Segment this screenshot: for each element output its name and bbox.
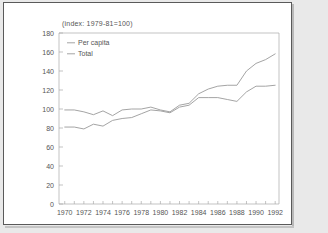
y-tick-label: 80 xyxy=(46,125,54,132)
legend-label: Per capita xyxy=(78,39,110,47)
x-tick-label: 1990 xyxy=(248,209,264,216)
page-shadow-bottom xyxy=(5,226,294,228)
chart-legend: Per capitaTotal xyxy=(67,39,110,57)
y-tick-label: 60 xyxy=(46,144,54,151)
y-tick-label: 140 xyxy=(42,68,54,75)
x-tick-label: 1992 xyxy=(267,209,283,216)
axes: 0204060801001201401601801970197219741976… xyxy=(42,30,283,216)
data-series xyxy=(65,54,275,129)
chart-page: (index: 1979-81=100) 0204060801001201401… xyxy=(3,2,292,225)
x-tick-label: 1978 xyxy=(133,209,149,216)
x-tick-label: 1974 xyxy=(95,209,111,216)
y-tick-label: 0 xyxy=(50,201,54,208)
y-tick-label: 40 xyxy=(46,163,54,170)
x-tick-label: 1986 xyxy=(210,209,226,216)
figure-background: (index: 1979-81=100) 0204060801001201401… xyxy=(0,0,328,233)
page-shadow-right xyxy=(292,4,294,227)
x-tick-label: 1984 xyxy=(191,209,207,216)
x-tick-label: 1970 xyxy=(57,209,73,216)
y-tick-label: 180 xyxy=(42,30,54,37)
x-tick-label: 1980 xyxy=(153,209,169,216)
x-tick-label: 1976 xyxy=(114,209,130,216)
legend-label: Total xyxy=(78,50,93,57)
x-tick-label: 1988 xyxy=(229,209,245,216)
y-tick-label: 160 xyxy=(42,49,54,56)
line-chart: 0204060801001201401601801970197219741976… xyxy=(4,3,293,226)
series-line-per-capita xyxy=(65,85,275,129)
y-tick-label: 100 xyxy=(42,106,54,113)
y-tick-label: 20 xyxy=(46,182,54,189)
y-tick-label: 120 xyxy=(42,87,54,94)
x-tick-label: 1982 xyxy=(172,209,188,216)
x-tick-label: 1972 xyxy=(76,209,92,216)
series-line-total xyxy=(65,54,275,116)
